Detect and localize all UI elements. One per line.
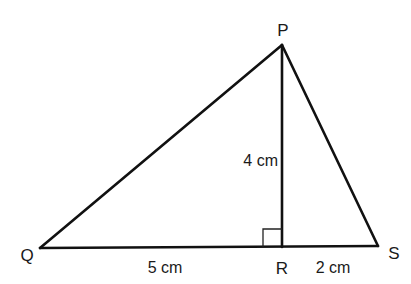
vertex-label-S: S [388, 244, 399, 263]
edge-PS [282, 45, 378, 246]
vertex-label-P: P [277, 21, 288, 40]
vertex-label-R: R [276, 259, 288, 278]
vertex-label-Q: Q [20, 246, 33, 265]
edge-QS-base [40, 246, 378, 248]
right-angle-marker [263, 229, 282, 247]
edge-QP [40, 45, 282, 248]
measure-label-PR: 4 cm [243, 152, 278, 169]
measure-label-QR: 5 cm [148, 259, 183, 276]
triangle-diagram: P Q R S 5 cm 2 cm 4 cm [0, 0, 411, 284]
measure-label-RS: 2 cm [316, 259, 351, 276]
